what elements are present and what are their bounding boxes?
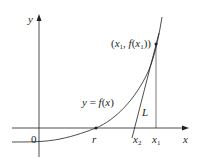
tangent-label: L [142, 107, 148, 118]
root-label: r [92, 134, 96, 145]
x-axis-label: x [183, 134, 188, 145]
x2-label: x2 [133, 134, 141, 147]
newton-method-diagram: y 0 x r x2 x1 y = f(x) L (x1, f(x1)) [0, 0, 205, 168]
origin-label: 0 [31, 134, 37, 145]
x-axis-arrow-icon [182, 126, 189, 131]
point-x1-fx1 [155, 43, 158, 46]
curve-f-of-x [12, 17, 162, 142]
y-axis-arrow-icon [37, 14, 42, 21]
y-axis-label: y [28, 14, 33, 25]
curve-label: y = f(x) [82, 97, 114, 108]
point-root-r [95, 127, 98, 130]
point-label: (x1, f(x1)) [111, 38, 151, 51]
x1-label: x1 [152, 134, 160, 147]
